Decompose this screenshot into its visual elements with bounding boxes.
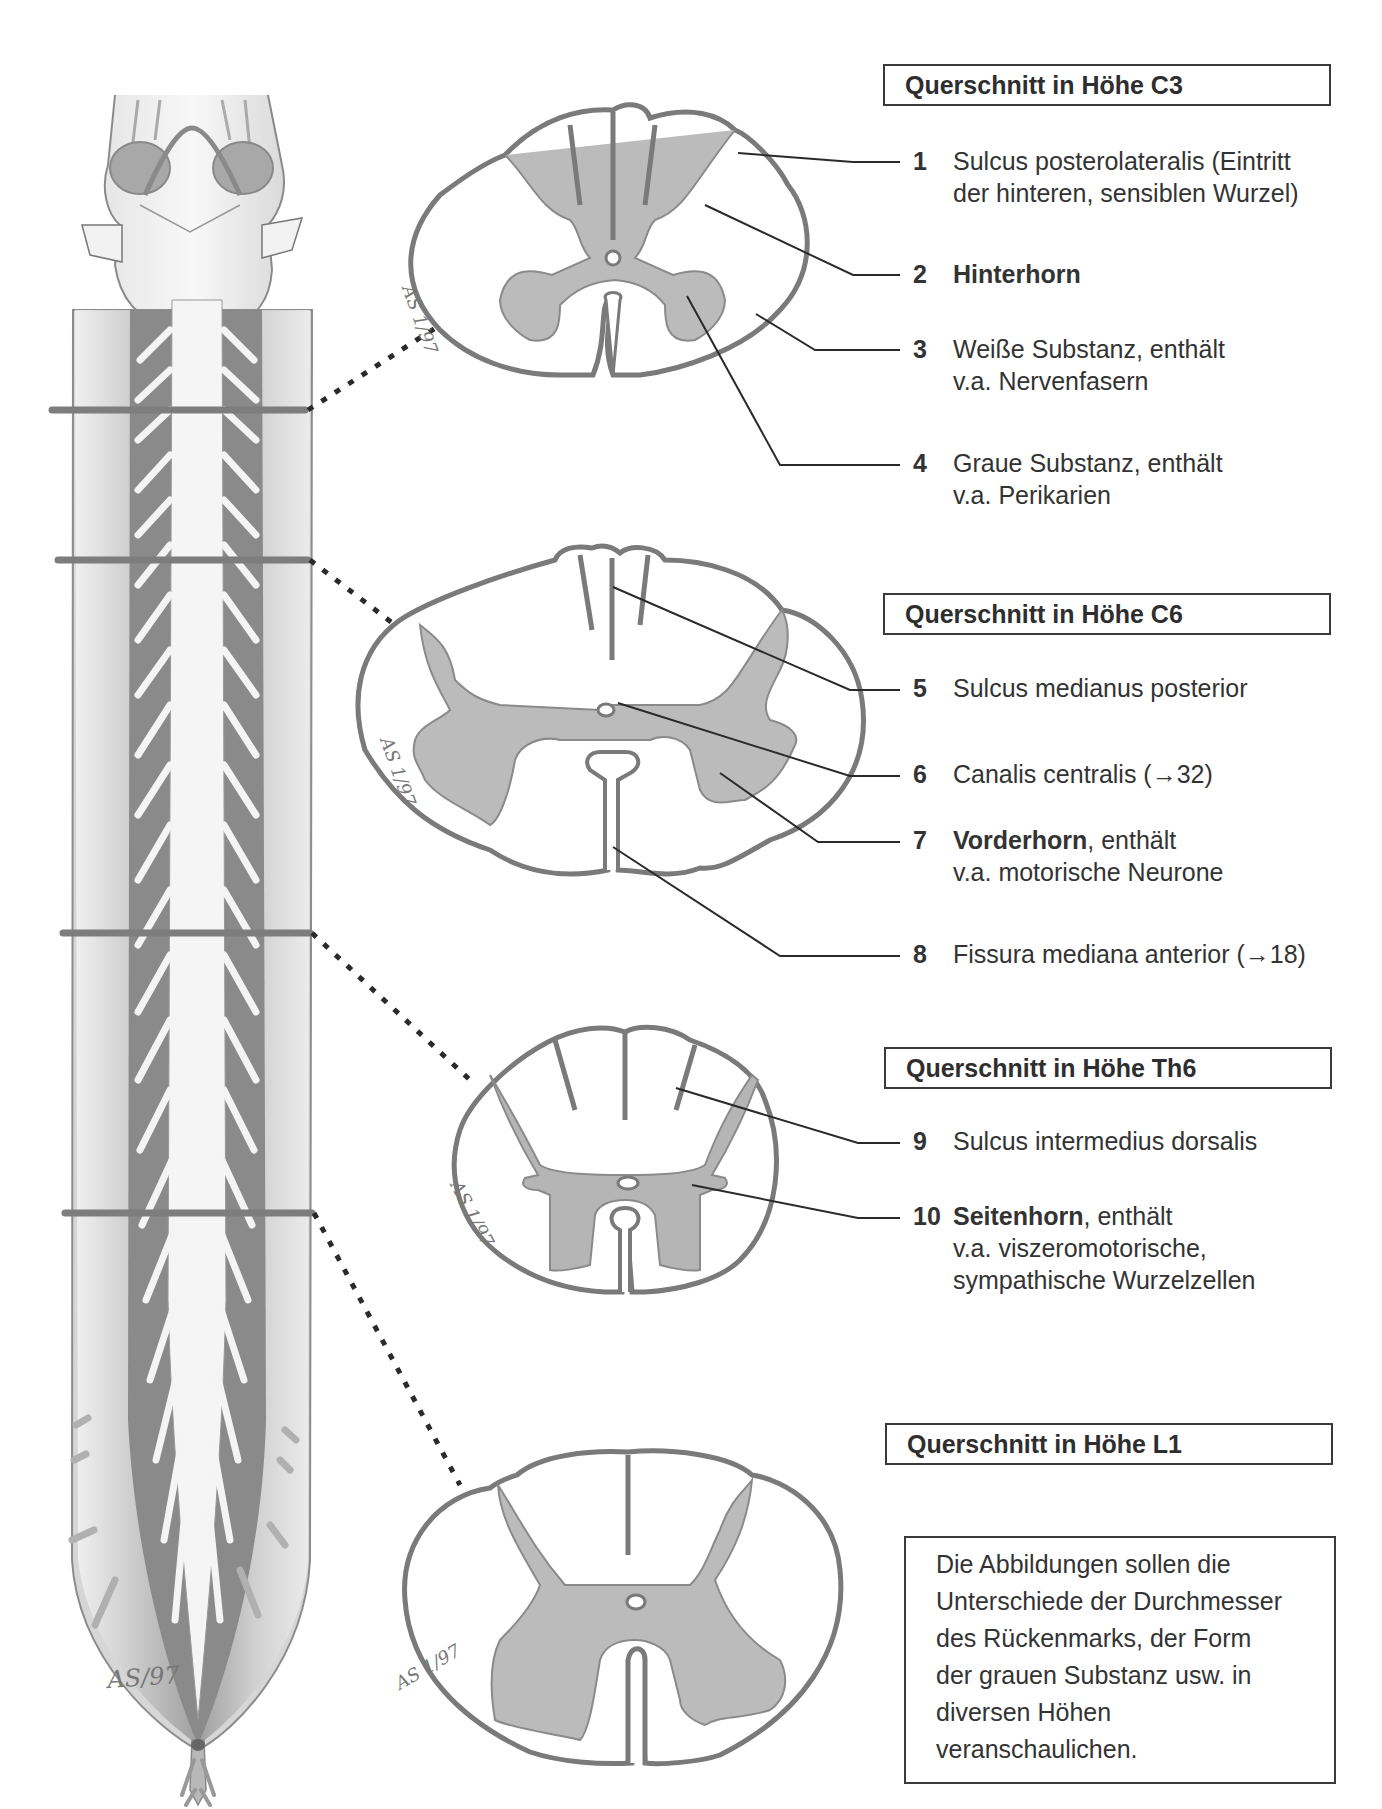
section-title-c6: Querschnitt in Höhe C6 <box>883 593 1331 635</box>
explanation-note: Die Abbildungen sollen die Unterschiede … <box>904 1536 1336 1784</box>
section-title-c3: Querschnitt in Höhe C3 <box>883 64 1331 106</box>
section-title-th6: Querschnitt in Höhe Th6 <box>884 1047 1332 1089</box>
spinal-cord-overview: AS/97 <box>52 95 470 1805</box>
label-2-bold: Hinterhorn <box>953 260 1081 288</box>
cross-section-c6 <box>358 546 863 874</box>
cross-section-c3 <box>411 105 808 375</box>
cross-section-l1 <box>405 1451 841 1764</box>
artist-signature: AS/97 <box>104 1661 181 1694</box>
section-title-l1: Querschnitt in Höhe L1 <box>885 1423 1333 1465</box>
label-1-text: Sulcus posterolateralis (Eintritt <box>953 145 1291 177</box>
cross-section-th6 <box>454 1027 776 1292</box>
